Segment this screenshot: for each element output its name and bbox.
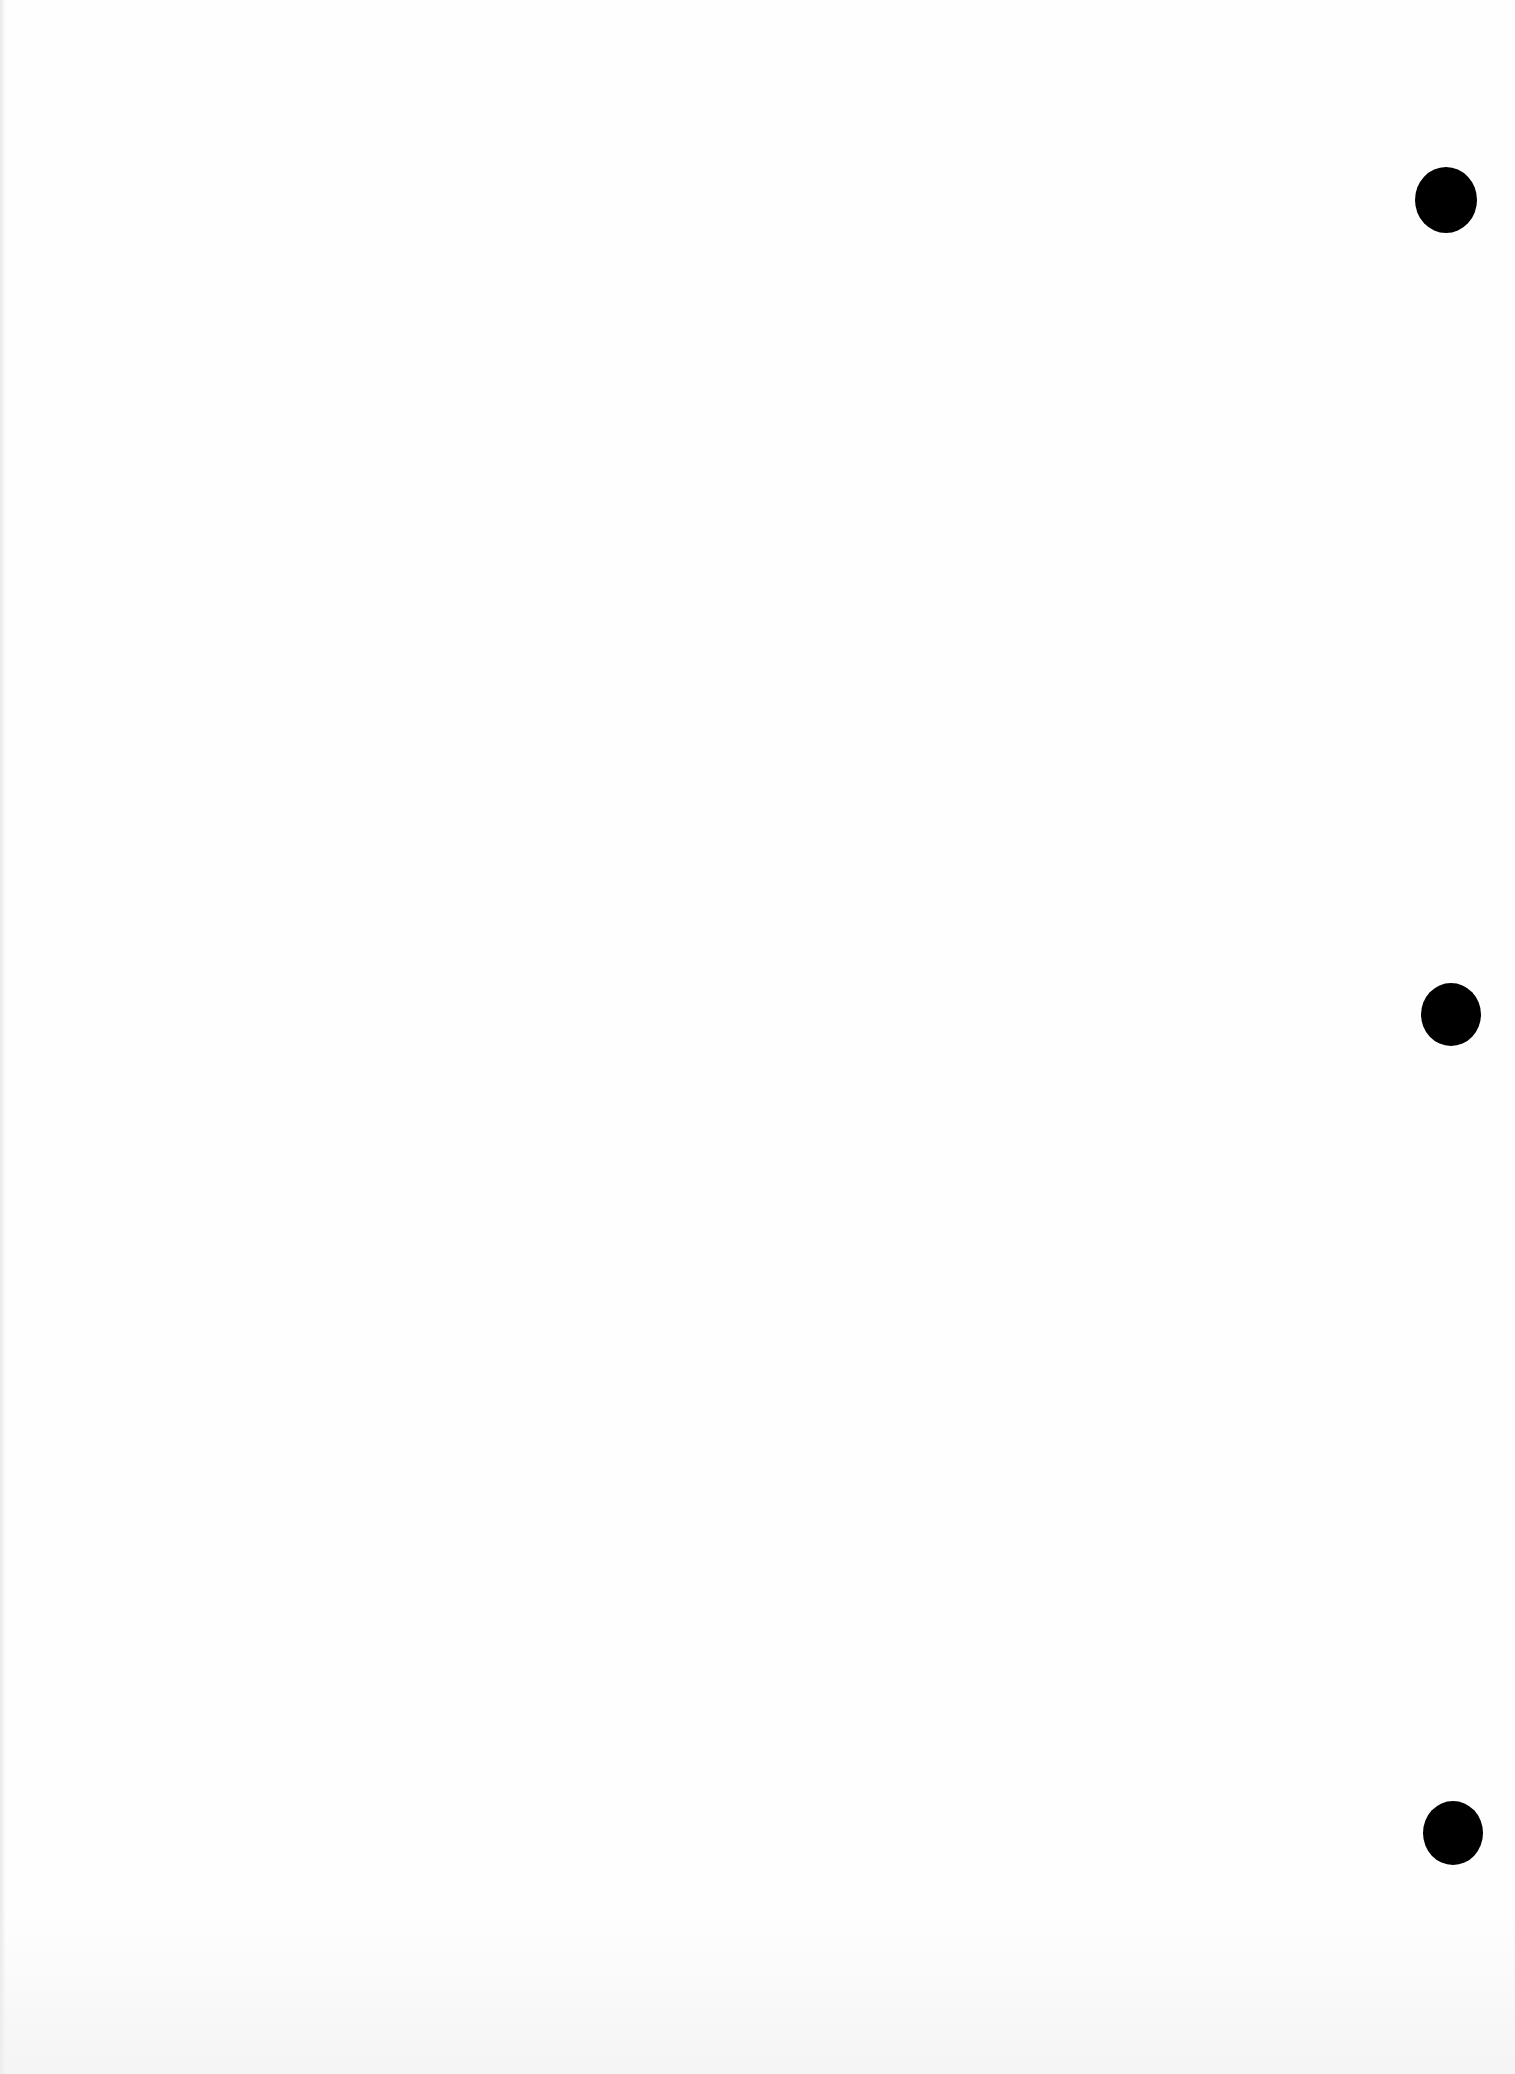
scanned-page [0, 0, 1515, 2074]
punch-hole-middle [1421, 983, 1481, 1046]
page-edge-shadow [0, 0, 6, 2074]
punch-hole-bottom [1423, 1801, 1483, 1865]
punch-hole-top [1415, 167, 1477, 233]
